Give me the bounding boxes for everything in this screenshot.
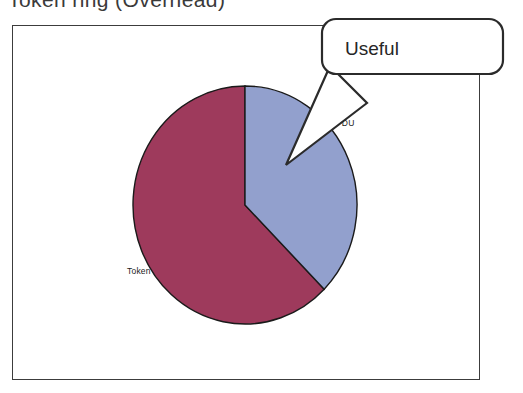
chart-frame (12, 25, 480, 380)
pie-label-token: Token (127, 266, 151, 276)
page-title: Token ring (Overhead) (8, 0, 428, 13)
pie-label-pdu: PDU (336, 118, 355, 128)
screenshot-root: Token ring (Overhead) Token PDU Useful (0, 0, 523, 393)
